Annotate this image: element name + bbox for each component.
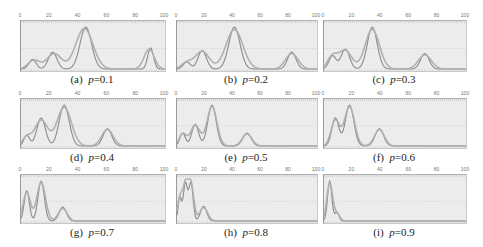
x-tick-label: 0 xyxy=(175,166,178,172)
caption-label: (c) xyxy=(372,73,384,85)
x-tick-label: 20 xyxy=(201,166,207,172)
x-tick-label: 80 xyxy=(434,166,440,172)
x-tick-label: 60 xyxy=(257,12,263,18)
x-tick-label: 80 xyxy=(285,90,291,96)
series-line xyxy=(177,27,317,69)
caption-label: (h) xyxy=(224,226,237,238)
series-line xyxy=(324,183,466,221)
x-tick-label: 40 xyxy=(377,90,383,96)
x-tick-label: 40 xyxy=(377,166,383,172)
caption-label: (g) xyxy=(70,226,83,238)
x-tick-label: 0 xyxy=(322,12,325,18)
series-line xyxy=(324,27,466,69)
caption-value: =0.7 xyxy=(94,226,114,238)
x-tick-label: 20 xyxy=(201,12,207,18)
plot-area xyxy=(323,174,467,224)
subplot-caption: (b) p=0.2 xyxy=(224,73,268,85)
x-tick-label: 80 xyxy=(132,90,138,96)
caption-value: =0.9 xyxy=(395,226,415,238)
x-tick-label: 60 xyxy=(405,166,411,172)
x-tick-label: 100 xyxy=(160,166,168,172)
x-tick-label: 20 xyxy=(46,12,52,18)
x-tick-label: 80 xyxy=(285,166,291,172)
plot-area xyxy=(323,20,467,72)
caption-value: =0.3 xyxy=(396,73,416,85)
x-tick-label: 40 xyxy=(75,90,81,96)
x-tick-label: 100 xyxy=(461,90,469,96)
x-tick-label: 40 xyxy=(229,90,235,96)
x-tick-label: 20 xyxy=(46,166,52,172)
subplot-caption: (h) p=0.8 xyxy=(224,226,268,238)
series-line xyxy=(324,181,466,221)
caption-value: =0.5 xyxy=(248,151,268,163)
subplot-caption: (a) p=0.1 xyxy=(70,73,113,85)
x-tick-label: 0 xyxy=(175,90,178,96)
series-line xyxy=(177,179,317,221)
subplot-caption: (e) p=0.5 xyxy=(224,151,267,163)
x-tick-label: 0 xyxy=(19,12,22,18)
x-tick-label: 100 xyxy=(312,166,320,172)
series-line xyxy=(177,105,317,146)
x-tick-label: 0 xyxy=(175,12,178,18)
plot-area xyxy=(176,174,318,224)
x-tick-label: 100 xyxy=(160,90,168,96)
curves xyxy=(324,175,466,223)
x-tick-label: 20 xyxy=(349,90,355,96)
curves xyxy=(177,175,317,223)
plot-area xyxy=(20,20,166,72)
subplot-caption: (g) p=0.7 xyxy=(70,226,114,238)
x-tick-label: 60 xyxy=(104,12,110,18)
curves xyxy=(324,99,466,148)
x-tick-label: 60 xyxy=(104,90,110,96)
caption-value: =0.4 xyxy=(94,151,114,163)
caption-label: (b) xyxy=(224,73,237,85)
x-tick-label: 20 xyxy=(46,90,52,96)
x-tick-label: 40 xyxy=(377,12,383,18)
x-tick-label: 60 xyxy=(405,12,411,18)
x-tick-label: 80 xyxy=(132,166,138,172)
curves xyxy=(177,99,317,148)
x-tick-label: 100 xyxy=(160,12,168,18)
curves xyxy=(21,21,165,71)
x-tick-label: 60 xyxy=(405,90,411,96)
x-tick-label: 100 xyxy=(461,12,469,18)
plot-area xyxy=(176,20,318,72)
plot-area xyxy=(20,174,166,224)
subplot-caption: (d) p=0.4 xyxy=(70,151,114,163)
x-tick-label: 0 xyxy=(322,90,325,96)
x-tick-label: 40 xyxy=(75,12,81,18)
x-tick-label: 80 xyxy=(132,12,138,18)
x-tick-label: 100 xyxy=(312,90,320,96)
series-line xyxy=(21,107,165,146)
x-tick-label: 60 xyxy=(257,90,263,96)
x-tick-label: 20 xyxy=(349,166,355,172)
plot-area xyxy=(323,98,467,149)
series-line xyxy=(21,27,165,69)
plot-area xyxy=(20,98,166,149)
x-tick-label: 0 xyxy=(322,166,325,172)
x-tick-label: 40 xyxy=(229,166,235,172)
curves xyxy=(21,99,165,148)
subplot-caption: (c) p=0.3 xyxy=(372,73,415,85)
x-tick-label: 60 xyxy=(257,166,263,172)
x-tick-label: 80 xyxy=(434,90,440,96)
x-tick-label: 0 xyxy=(19,90,22,96)
x-tick-label: 20 xyxy=(349,12,355,18)
x-tick-label: 20 xyxy=(201,90,207,96)
caption-label: (e) xyxy=(224,151,236,163)
caption-value: =0.1 xyxy=(94,73,114,85)
curves xyxy=(177,21,317,71)
caption-label: (f) xyxy=(373,151,384,163)
x-tick-label: 40 xyxy=(229,12,235,18)
x-tick-label: 100 xyxy=(461,166,469,172)
plot-area xyxy=(176,98,318,149)
x-tick-label: 0 xyxy=(19,166,22,172)
x-tick-label: 60 xyxy=(104,166,110,172)
x-tick-label: 100 xyxy=(312,12,320,18)
subplot-caption: (i) p=0.9 xyxy=(373,226,414,238)
series-line xyxy=(177,29,317,69)
x-tick-label: 80 xyxy=(434,12,440,18)
subplot-caption: (f) p=0.6 xyxy=(373,151,415,163)
series-line xyxy=(324,105,466,146)
series-line xyxy=(21,105,165,146)
